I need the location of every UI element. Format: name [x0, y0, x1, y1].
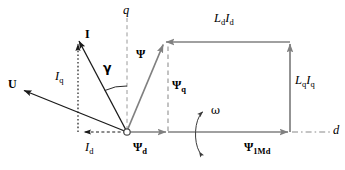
ld-id-i-subscript: d	[229, 17, 233, 27]
psi-q-base: Ψ	[172, 78, 181, 92]
omega-label: ω	[211, 105, 220, 116]
i-vector-label: I	[85, 28, 90, 40]
psi-d-subscript: d	[142, 146, 147, 156]
psi-1md-subscript: 1Md	[253, 146, 270, 156]
ld-subscript: d	[221, 17, 225, 27]
psi-1md-label: Ψ1Md	[244, 141, 270, 153]
id-component-label: Id	[85, 141, 93, 154]
id-subscript: d	[89, 146, 93, 156]
u-vector	[24, 91, 127, 133]
gamma-angle-arc	[105, 86, 127, 91]
lq-subscript: q	[302, 79, 306, 89]
phasor-diagram: q d U I Iq Id Ψ Ψq Ψd Ψ1Md LdId LqIq γ ω	[0, 0, 345, 170]
ld-base: L	[214, 11, 221, 25]
psi-q-subscript: q	[181, 84, 186, 94]
psi-q-label: Ψq	[172, 79, 186, 91]
lq-iq-label: LqIq	[295, 74, 315, 87]
psi-1md-base: Ψ	[244, 140, 253, 154]
lq-iq-i-subscript: q	[310, 79, 314, 89]
iq-component-label: Iq	[55, 70, 63, 83]
d-axis-label: d	[333, 124, 339, 137]
psi-d-base: Ψ	[133, 140, 142, 154]
origin-marker	[124, 129, 130, 135]
iq-subscript: q	[59, 75, 63, 85]
gamma-angle-label: γ	[103, 62, 112, 75]
psi-vector-label: Ψ	[136, 48, 145, 60]
q-axis-label: q	[123, 4, 129, 17]
lq-base: L	[295, 73, 302, 87]
psi-d-label: Ψd	[133, 141, 147, 153]
ld-id-label: LdId	[214, 12, 234, 25]
u-vector-label: U	[8, 78, 17, 90]
